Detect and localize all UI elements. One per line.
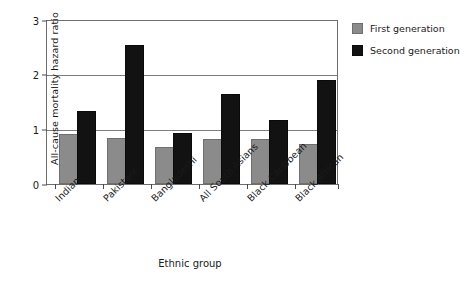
x-tick-mark-1 bbox=[103, 184, 104, 189]
x-tick-mark-5 bbox=[295, 184, 296, 189]
x-tick-mark-6 bbox=[338, 184, 339, 189]
x-axis-title: Ethnic group bbox=[0, 258, 380, 269]
legend-item-second-generation[interactable]: Second generation bbox=[352, 42, 460, 59]
legend-label-second-generation: Second generation bbox=[370, 45, 460, 56]
x-tick-mark-2 bbox=[151, 184, 152, 189]
bar-second-pakistani[interactable] bbox=[125, 45, 144, 184]
y-tick-label-1: 1 bbox=[17, 125, 47, 136]
y-tick-label-2: 2 bbox=[17, 70, 47, 81]
chart-figure: 3 2 1 0 All-cause mortality hazard ratio bbox=[0, 0, 468, 286]
chart-legend: First generation Second generation bbox=[352, 20, 460, 64]
x-tick-mark-0 bbox=[55, 184, 56, 189]
legend-swatch-second-generation bbox=[352, 45, 363, 56]
y-tick-label-0: 0 bbox=[17, 180, 47, 191]
legend-item-first-generation[interactable]: First generation bbox=[352, 20, 460, 37]
legend-label-first-generation: First generation bbox=[370, 23, 445, 34]
bar-group-indian bbox=[55, 21, 103, 184]
bar-second-indian[interactable] bbox=[77, 111, 96, 184]
x-tick-mark-4 bbox=[247, 184, 248, 189]
bar-group-pakistani bbox=[103, 21, 151, 184]
x-tick-mark-3 bbox=[199, 184, 200, 189]
legend-swatch-first-generation bbox=[352, 23, 363, 34]
y-tick-label-3: 3 bbox=[17, 16, 47, 27]
